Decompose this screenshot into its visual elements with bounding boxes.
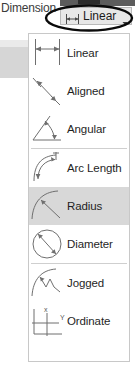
adjacent-panel-top [0, 40, 28, 47]
arc-length-dimension-icon [29, 150, 67, 186]
menu-item-label: Arc Length [67, 162, 122, 174]
menu-item-diameter[interactable]: Diameter [29, 225, 129, 263]
diameter-dimension-icon [29, 226, 67, 262]
ordinate-dimension-icon: x [29, 303, 67, 339]
menu-item-label: Jogged [67, 277, 104, 289]
menu-item-label: Angular [67, 123, 106, 135]
angular-dimension-icon [29, 111, 67, 147]
menu-item-label: Aligned [67, 85, 105, 97]
adjacent-panel-block [0, 47, 28, 78]
jogged-dimension-icon [29, 265, 67, 301]
menu-item-label: Diameter [67, 238, 113, 250]
ribbon-tab-marker [78, 0, 100, 4]
menu-item-label: Ordinate [67, 315, 110, 327]
split-button-label: Linear [83, 9, 116, 23]
svg-text:x: x [44, 306, 48, 313]
ordinate-y-axis-label: Y [60, 314, 65, 321]
menu-item-linear[interactable]: Linear [29, 34, 129, 72]
menu-item-angular[interactable]: Angular [29, 110, 129, 148]
linear-dimension-icon [29, 35, 67, 71]
menu-item-label: Radius [67, 200, 102, 212]
menu-item-arc-length[interactable]: Arc Length [29, 149, 129, 187]
screenshot-root: Dimension Linear [0, 0, 135, 370]
menu-item-radius[interactable]: Radius [29, 187, 129, 225]
menu-item-jogged[interactable]: Jogged [29, 264, 129, 302]
dimension-split-button[interactable]: Linear [60, 7, 132, 25]
chevron-down-icon[interactable] [121, 13, 129, 21]
aligned-dimension-icon [29, 73, 67, 109]
ribbon-group-label: Dimension [1, 1, 56, 15]
menu-item-aligned[interactable]: Aligned [29, 72, 129, 110]
menu-item-label: Linear [67, 47, 98, 59]
menu-item-ordinate[interactable]: x Ordinate Y [29, 302, 129, 340]
dimension-dropdown-panel[interactable]: Linear Aligned [28, 33, 130, 362]
radius-dimension-icon [29, 188, 67, 224]
linear-dimension-icon [65, 11, 81, 23]
